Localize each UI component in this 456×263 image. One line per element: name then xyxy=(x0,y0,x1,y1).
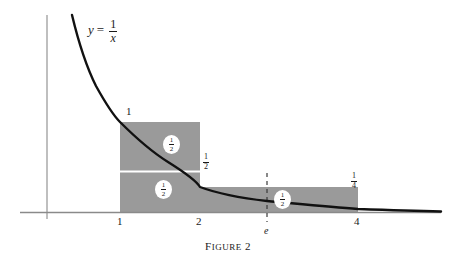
curve-value-label-one-half: 1 2 xyxy=(203,153,209,171)
region-upper-unit-square xyxy=(120,122,200,171)
fraction-denominator: 4 xyxy=(351,182,357,190)
fraction-one-half: 1 2 xyxy=(169,137,175,153)
fraction-denominator: 2 xyxy=(203,163,209,171)
area-badge-lower-unit-square: 1 2 xyxy=(155,180,172,199)
equation-denominator: x xyxy=(109,32,116,44)
fraction-numerator: 1 xyxy=(351,172,357,180)
fraction-denominator: 2 xyxy=(169,146,175,153)
equation-equals-sign: = xyxy=(97,22,104,37)
fraction-numerator: 1 xyxy=(169,137,175,144)
caption-number: 2 xyxy=(245,240,251,252)
figure-graphic xyxy=(0,0,456,263)
area-badge-upper-unit-square: 1 2 xyxy=(163,135,180,154)
fraction-one-half: 1 2 xyxy=(161,182,167,198)
figure-container: y=1x 1 1 2 1 4 1 2 1 2 1 xyxy=(0,0,456,263)
curve-value-label-one-quarter: 1 4 xyxy=(351,172,357,190)
fraction-one-quarter: 1 4 xyxy=(351,172,357,190)
fraction-numerator: 1 xyxy=(280,192,286,199)
caption-word: IGURE xyxy=(212,242,242,252)
fraction-numerator: 1 xyxy=(203,153,209,161)
area-badge-wide-rectangle: 1 2 xyxy=(274,190,291,209)
fraction-numerator: 1 xyxy=(161,182,167,189)
equation-fraction: 1x xyxy=(109,18,117,44)
curve-value-label-1: 1 xyxy=(126,106,132,117)
figure-caption: FIGURE 2 xyxy=(0,240,456,252)
x-marker-label-e: e xyxy=(264,226,268,236)
fraction-denominator: 2 xyxy=(280,201,286,208)
x-tick-label-2: 2 xyxy=(196,216,202,227)
fraction-denominator: 2 xyxy=(161,191,167,198)
x-tick-label-1: 1 xyxy=(117,216,123,227)
equation-numerator: 1 xyxy=(109,18,117,30)
x-tick-label-4: 4 xyxy=(354,216,360,227)
fraction-one-half: 1 2 xyxy=(280,192,286,208)
fraction-one-half: 1 2 xyxy=(203,153,209,171)
equation-label: y=1x xyxy=(88,18,117,44)
equation-lhs: y xyxy=(88,22,94,37)
caption-first-letter: F xyxy=(205,240,212,252)
